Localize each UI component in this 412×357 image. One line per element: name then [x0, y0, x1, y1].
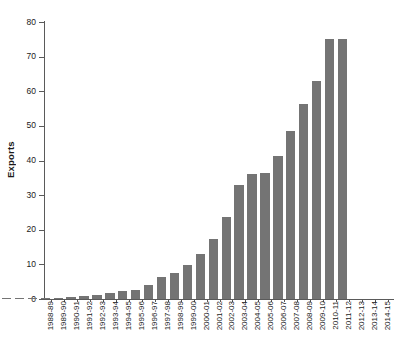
bar: [92, 295, 101, 299]
bar: [170, 273, 179, 299]
bar: [2, 298, 11, 299]
bar: [118, 291, 127, 299]
x-axis-tick-label: 1998-99: [177, 301, 185, 330]
x-axis-tick-label: 1995-96: [138, 301, 146, 330]
x-axis-tick-label: 2000-01: [203, 301, 211, 330]
x-axis-tick-label: 2008-09: [306, 301, 314, 330]
bar: [299, 104, 308, 299]
bar: [28, 298, 37, 299]
x-axis-tick-label: 2002-03: [228, 301, 236, 330]
bar: [183, 265, 192, 299]
x-axis-tick-label: 2011-12: [345, 301, 353, 330]
x-axis-tick-label: 1997-98: [164, 301, 172, 330]
x-axis-tick-label: 1991-92: [86, 301, 94, 330]
y-axis-tick: [39, 299, 44, 300]
bar: [79, 296, 88, 299]
x-axis-tick-label: 1988-89: [47, 301, 55, 330]
bar: [144, 285, 153, 299]
bar: [247, 174, 256, 299]
x-axis-tick-label: 2010-11: [332, 301, 340, 330]
x-axis-tick-label: 1990-91: [73, 301, 81, 330]
bar: [41, 298, 50, 299]
x-axis-tick-label: 2006-07: [280, 301, 288, 330]
x-axis-tick-label: 1989-90: [60, 301, 68, 330]
bar: [234, 185, 243, 299]
x-axis-tick-label: 2004-05: [254, 301, 262, 330]
x-axis-tick-label: 1996-97: [151, 301, 159, 330]
x-axis-tick-label: 2005-06: [267, 301, 275, 330]
bar: [312, 81, 321, 299]
x-axis-tick-label: 2003-04: [241, 301, 249, 330]
bar: [260, 173, 269, 299]
x-axis-tick-label: 1994-95: [125, 301, 133, 330]
bar: [325, 39, 334, 299]
bar: [15, 298, 24, 299]
bar: [157, 277, 166, 299]
x-axis-tick-label: 2001-02: [216, 301, 224, 330]
x-axis-labels: 1988-891989-901990-911991-921992-931993-…: [45, 301, 394, 357]
x-axis-tick-label: 1992-93: [99, 301, 107, 330]
bar: [209, 239, 218, 299]
bar: [338, 39, 347, 299]
x-axis-tick-label: 1999-00: [190, 301, 198, 330]
bar: [66, 297, 75, 299]
bar: [105, 293, 114, 299]
bar: [273, 156, 282, 299]
bar: [131, 290, 140, 299]
bar: [286, 131, 295, 299]
x-axis-tick-label: 2014-15: [384, 301, 392, 330]
bar: [222, 217, 231, 299]
x-axis-tick-label: 2012-13: [358, 301, 366, 330]
bar-chart: Exports 01020304050607080 1988-891989-90…: [0, 0, 412, 357]
bar-series: [0, 0, 349, 299]
bar: [196, 254, 205, 299]
x-axis-tick-label: 2009-10: [319, 301, 327, 330]
bar: [54, 298, 63, 299]
x-axis-tick-label: 2007-08: [293, 301, 301, 330]
x-axis-tick-label: 2013-14: [371, 301, 379, 330]
x-axis-tick-label: 1993-94: [112, 301, 120, 330]
